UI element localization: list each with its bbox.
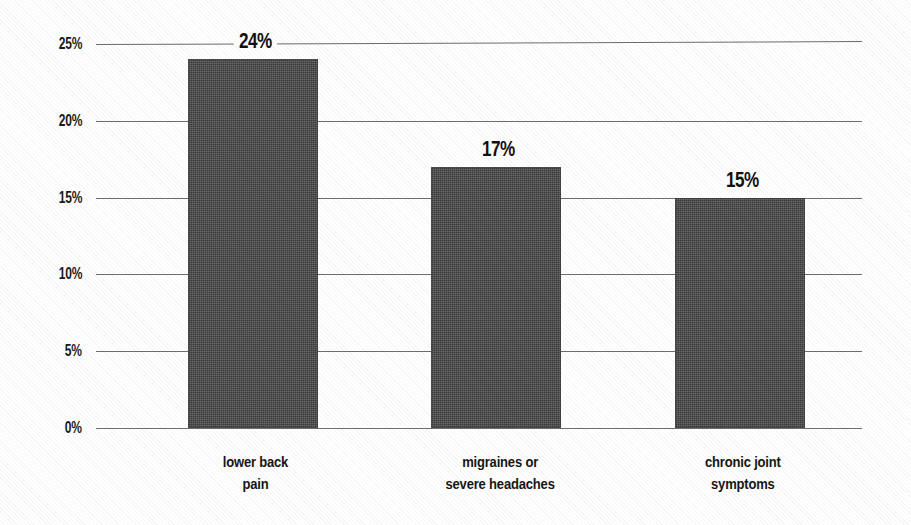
x-axis-category-label-line: chronic joint [705,452,781,474]
y-axis-tick-label: 20% [59,111,82,129]
bar-value-label: 17% [477,137,520,159]
y-axis-tick-label: 10% [59,264,82,282]
gridline-0pct [96,428,862,429]
x-axis-category-label: migraines orsevere headaches [445,452,554,496]
bar[interactable] [675,198,805,428]
bar[interactable] [431,167,561,428]
plot-area: 0%5%10%15%20%25% 24%17%15% lower backpai… [96,44,862,428]
y-axis-tick-label: 5% [65,341,82,359]
y-axis-tick-label: 25% [59,34,82,52]
y-axis-tick-label: 15% [59,188,82,206]
bar-value-label: 15% [721,168,764,190]
x-axis-category-label-line: pain [222,474,287,496]
x-axis-category-label-line: migraines or [445,452,554,474]
x-axis-category-label: chronic jointsymptoms [705,452,781,496]
x-axis-category-label-line: symptoms [705,474,781,496]
bar-chart: 0%5%10%15%20%25% 24%17%15% lower backpai… [0,0,911,525]
y-axis-tick-label: 0% [65,418,82,436]
x-axis-category-label: lower backpain [222,452,287,496]
x-axis-category-label-line: severe headaches [445,474,554,496]
gridline-25pct [96,41,862,45]
x-axis-category-label-line: lower back [222,452,287,474]
bar-value-label: 24% [233,30,276,52]
bar[interactable] [188,59,318,428]
